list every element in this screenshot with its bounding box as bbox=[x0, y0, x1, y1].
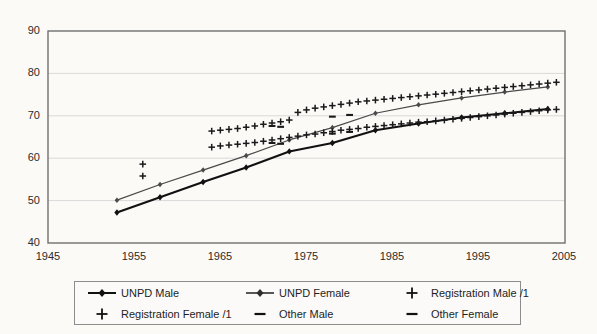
legend-label-unpd-female: UNPD Female bbox=[277, 287, 350, 299]
y-tick-label-90: 90 bbox=[10, 24, 40, 36]
legend-label-registration-male: Registration Male /1 bbox=[429, 287, 529, 299]
chart-legend: UNPD Male UNPD Female bbox=[74, 281, 521, 325]
x-tick-label-1995: 1995 bbox=[456, 250, 500, 262]
legend-item-unpd-female: UNPD Female bbox=[243, 282, 350, 304]
x-tick-label-1945: 1945 bbox=[26, 250, 70, 262]
legend-item-unpd-male: UNPD Male bbox=[85, 282, 179, 304]
y-tick-label-70: 70 bbox=[10, 109, 40, 121]
y-tick-label-50: 50 bbox=[10, 194, 40, 206]
legend-item-other-male: Other Male bbox=[243, 303, 333, 325]
legend-label-other-female: Other Female bbox=[429, 308, 498, 320]
y-tick-label-40: 40 bbox=[10, 236, 40, 248]
x-tick-label-2005: 2005 bbox=[542, 250, 586, 262]
y-tick-label-60: 60 bbox=[10, 151, 40, 163]
legend-marker-dash bbox=[395, 303, 429, 325]
chart-figure: 90 80 70 60 50 40 1945 1955 1965 1975 19… bbox=[0, 0, 597, 334]
x-tick-label-1965: 1965 bbox=[198, 250, 242, 262]
x-tick-label-1955: 1955 bbox=[112, 250, 156, 262]
legend-marker-line-diamond-gray bbox=[243, 282, 277, 304]
legend-marker-dash bbox=[243, 303, 277, 325]
legend-marker-line-diamond-black bbox=[85, 282, 119, 304]
legend-item-registration-male: Registration Male /1 bbox=[395, 282, 529, 304]
y-tick-label-80: 80 bbox=[10, 66, 40, 78]
legend-item-other-female: Other Female bbox=[395, 303, 498, 325]
legend-label-unpd-male: UNPD Male bbox=[119, 287, 179, 299]
legend-label-other-male: Other Male bbox=[277, 308, 333, 320]
legend-label-registration-female: Registration Female /1 bbox=[119, 308, 232, 320]
legend-marker-plus bbox=[85, 303, 119, 325]
legend-item-registration-female: Registration Female /1 bbox=[85, 303, 232, 325]
x-tick-label-1985: 1985 bbox=[370, 250, 414, 262]
legend-marker-plus bbox=[395, 282, 429, 304]
x-tick-label-1975: 1975 bbox=[284, 250, 328, 262]
